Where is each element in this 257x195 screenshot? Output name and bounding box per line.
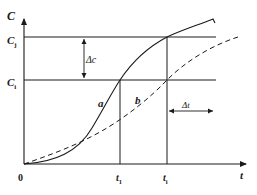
curve-b bbox=[24, 37, 238, 164]
delta-c-label: Δc bbox=[85, 54, 97, 65]
time-label-t1: t1 bbox=[116, 172, 122, 185]
delta-t-label: Δt bbox=[181, 100, 190, 110]
level-label-cj: Cj bbox=[7, 34, 17, 49]
origin-label: 0 bbox=[18, 172, 23, 183]
curve-a-label: a bbox=[98, 97, 104, 109]
time-label-ti: ti bbox=[163, 172, 168, 185]
level-label-ci: Ci bbox=[7, 76, 16, 91]
x-axis-label: t bbox=[240, 169, 244, 181]
curve-b-label: b bbox=[135, 94, 141, 106]
concentration-time-diagram: C t 0 Cj Ci t1 ti Δc Δt a b bbox=[0, 0, 257, 195]
y-axis-label: C bbox=[7, 9, 16, 23]
